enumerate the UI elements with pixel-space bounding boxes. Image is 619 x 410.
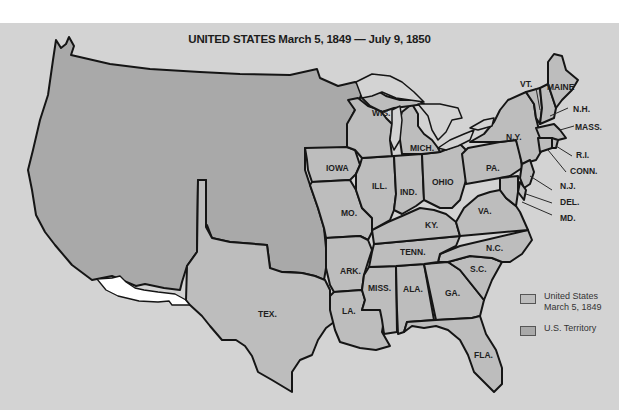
label-ri: R.I.: [576, 150, 589, 160]
legend-states-line2: March 5, 1849: [544, 302, 602, 313]
legend: United States March 5, 1849 U.S. Territo…: [520, 291, 619, 346]
map-title: UNITED STATES March 5, 1849 — July 9, 18…: [0, 33, 619, 45]
label-mass: MASS.: [575, 122, 602, 132]
leader-nj: [530, 176, 552, 190]
label-conn: CONN.: [570, 166, 597, 176]
label-nc: N.C.: [486, 243, 503, 253]
leader-md: [522, 202, 552, 215]
label-iowa: IOWA: [326, 163, 349, 173]
leader-mass: [560, 126, 574, 130]
label-maine: MAINE: [547, 82, 575, 92]
label-nj: N.J.: [560, 181, 576, 191]
label-la: LA.: [342, 306, 356, 316]
label-ky: KY.: [425, 220, 438, 230]
label-ill: ILL.: [372, 181, 387, 191]
legend-item-territory: U.S. Territory: [520, 323, 619, 336]
label-nh: N.H.: [573, 104, 590, 114]
label-pa: PA.: [486, 163, 500, 173]
label-ala: ALA.: [403, 284, 423, 294]
label-vt: VT.: [520, 79, 532, 89]
state-connecticut: [538, 138, 552, 152]
us-map: WIS. MICH. IOWA ILL. IND. OHIO PA. N.Y. …: [0, 0, 619, 410]
legend-label-territory: U.S. Territory: [544, 323, 596, 334]
label-ark: ARK.: [340, 266, 361, 276]
label-md: MD.: [560, 213, 576, 223]
leader-ri: [556, 146, 572, 156]
legend-swatch-territory: [520, 326, 536, 336]
state-indiana: [394, 154, 424, 214]
label-ind: IND.: [400, 187, 417, 197]
label-wis: WIS.: [372, 108, 390, 118]
label-sc: S.C.: [470, 264, 487, 274]
legend-item-states: United States March 5, 1849: [520, 291, 619, 313]
label-miss: MISS.: [368, 283, 391, 293]
legend-territory-line1: U.S. Territory: [544, 323, 596, 334]
label-ny: N.Y.: [506, 132, 522, 142]
leader-del: [526, 194, 552, 203]
label-del: DEL.: [560, 197, 579, 207]
label-mich: MICH.: [410, 143, 434, 153]
leader-conn: [548, 150, 566, 172]
label-fla: FLA.: [474, 350, 493, 360]
legend-label-states: United States March 5, 1849: [544, 291, 602, 313]
label-mo: MO.: [341, 208, 357, 218]
legend-swatch-states: [520, 294, 536, 304]
label-ga: GA.: [445, 288, 460, 298]
label-tex: TEX.: [258, 309, 277, 319]
label-tenn: TENN.: [400, 247, 426, 257]
label-va: VA.: [478, 206, 492, 216]
state-maine: [548, 54, 578, 108]
legend-states-line1: United States: [544, 291, 602, 302]
label-ohio: OHIO: [432, 177, 454, 187]
